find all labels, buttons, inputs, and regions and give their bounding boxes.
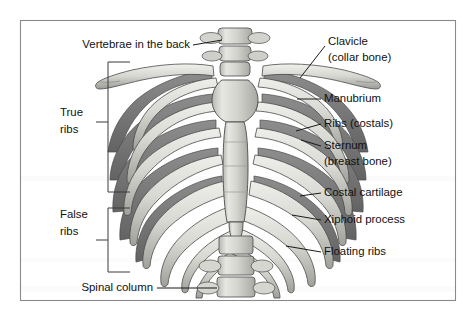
label-vertebrae-in-the-back: Vertebrae in the back xyxy=(82,38,190,50)
label-clavicle-line2: (collar bone) xyxy=(328,51,392,63)
label-costal-cartilage: Costal cartilage xyxy=(324,186,403,198)
manubrium xyxy=(212,80,258,122)
label-sternum-line2: (breast bone) xyxy=(324,155,392,167)
sternum-body xyxy=(223,122,248,222)
label-clavicle-line1: Clavicle xyxy=(328,35,368,47)
figure-canvas: Vertebrae in the back True ribs False ri… xyxy=(0,0,476,322)
label-true-ribs-line1: True xyxy=(60,106,83,118)
label-floating-ribs: Floating ribs xyxy=(324,245,386,257)
label-spinal-column: Spinal column xyxy=(81,281,153,293)
label-false-ribs-line1: False xyxy=(60,208,88,220)
label-sternum-line1: Sternum xyxy=(324,139,367,151)
label-false-ribs-line2: ribs xyxy=(60,225,79,237)
label-ribs-costals: Ribs (costals) xyxy=(324,117,393,129)
label-true-ribs-line2: ribs xyxy=(60,123,79,135)
label-manubrium: Manubrium xyxy=(324,92,381,104)
label-xiphoid-process: Xiphoid process xyxy=(324,213,405,225)
